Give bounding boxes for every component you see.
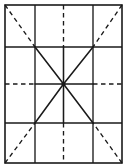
center-node — [61, 82, 65, 86]
diagram-root: Grid with radiating star diagram — [0, 0, 128, 168]
geometric-figure: Grid with radiating star diagram — [0, 0, 128, 168]
